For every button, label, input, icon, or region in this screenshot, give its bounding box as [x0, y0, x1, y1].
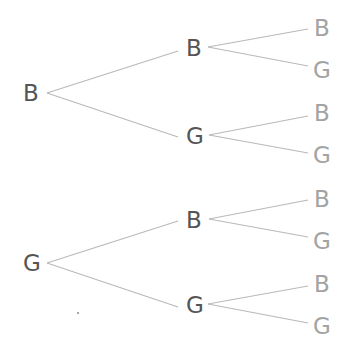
tree-edge-r1-r1g	[47, 93, 178, 137]
tree-edge-r1-r1b	[47, 51, 178, 93]
tree-node-r2b_g: G	[313, 228, 331, 254]
tree-edge-r2-r2b	[47, 221, 178, 263]
stray-dot	[77, 312, 79, 314]
tree-edge-r2-r2g	[47, 263, 178, 307]
tree-node-r2b: B	[186, 207, 202, 233]
tree-edge-r2g-r2g_g	[208, 304, 308, 323]
tree-node-r1b_g: G	[313, 57, 331, 83]
tree-node-r2g: G	[186, 292, 204, 318]
tree-edges	[47, 29, 308, 323]
tree-edge-r2b-r2b_b	[209, 200, 308, 219]
tree-edge-r1g-r1g_g	[209, 135, 308, 153]
tree-node-r1b_b: B	[314, 15, 330, 41]
tree-edge-r1g-r1g_b	[209, 116, 308, 135]
tree-node-r1: B	[23, 80, 39, 106]
tree-node-r2g_b: B	[314, 271, 330, 297]
tree-edge-r2b-r2b_g	[209, 219, 308, 237]
tree-node-r1g_b: B	[314, 100, 330, 126]
tree-node-r1g: G	[186, 123, 204, 149]
tree-node-r1g_g: G	[313, 142, 331, 168]
tree-edge-r1b-r1b_b	[208, 29, 308, 47]
tree-node-r2: G	[23, 250, 41, 276]
tree-edge-r1b-r1b_g	[208, 47, 308, 66]
tree-diagram: BBGBGBGGBGBGBG	[0, 0, 355, 355]
tree-node-r2g_g: G	[313, 313, 331, 339]
tree-node-r2b_b: B	[314, 186, 330, 212]
tree-edge-r2g-r2g_b	[208, 286, 308, 304]
tree-node-r1b: B	[186, 35, 202, 61]
